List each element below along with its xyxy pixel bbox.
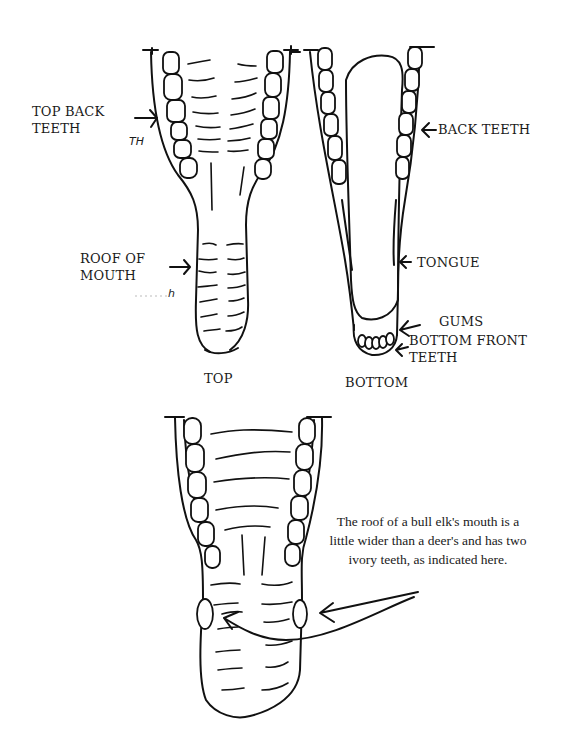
tongue-drawing [346,56,403,320]
label-bottom-front-teeth: BOTTOM FRONT TEETH [409,332,527,366]
label-tongue: TONGUE [417,254,480,271]
label-back-teeth: BACK TEETH [438,121,530,138]
top-view-drawing [135,46,298,353]
bottom-view-drawing [290,47,436,356]
label-gums: GUMS [439,313,483,330]
elk-left-teeth [184,418,220,568]
bottom-front-teeth-drawing [358,333,394,349]
caption-top: TOP [204,370,233,387]
roof-of-mouth-arrow [170,260,190,274]
label-roof-of-mouth: ROOF OF MOUTH [80,250,145,284]
elk-ivory-teeth [197,599,307,629]
top-right-teeth [255,51,283,179]
caption-bottom: BOTTOM [345,374,408,391]
mouth-anatomy-diagram: TOP BACK TEETH TH ROOF OF MOUTH h TOP BA… [0,0,573,750]
bottom-left-teeth [318,48,346,184]
elk-right-teeth [285,418,315,566]
top-back-teeth-arrow [135,110,157,127]
bottom-right-teeth [396,47,422,179]
elk-note-caption: The roof of a bull elk's mouth is a litt… [328,512,528,569]
handwritten-mark-h: h [168,287,175,300]
label-top-back-teeth: TOP BACK TEETH [32,103,104,137]
tongue-arrow [400,256,411,268]
bottom-front-teeth-arrow [396,344,408,356]
back-teeth-arrow [422,123,436,137]
ivory-tooth-arrow-left [224,597,414,640]
handwritten-mark-th: TH [129,135,144,148]
